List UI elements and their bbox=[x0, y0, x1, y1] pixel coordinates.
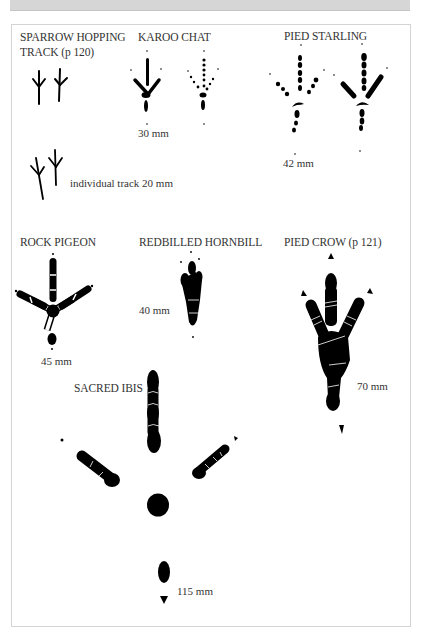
sparrow-label: SPARROW HOPPING bbox=[20, 31, 126, 43]
pied-starling-label: PIED STARLING bbox=[284, 30, 367, 42]
pied-crow-label: PIED CROW (p 121) bbox=[284, 236, 381, 248]
rock-pigeon-measurement: 45 mm bbox=[41, 355, 72, 367]
karoo-chat-label: KAROO CHAT bbox=[138, 31, 211, 43]
sparrow-track-icon bbox=[31, 69, 67, 199]
redbilled-hornbill-measurement: 40 mm bbox=[139, 304, 170, 316]
pied-crow-track-icon bbox=[301, 253, 373, 434]
sparrow-measurement: individual track 20 mm bbox=[70, 177, 173, 189]
tracks-artwork bbox=[0, 0, 424, 638]
pied-starling-measurement: 42 mm bbox=[283, 157, 314, 169]
redbilled-hornbill-track-icon bbox=[180, 251, 202, 338]
sacred-ibis-measurement: 115 mm bbox=[177, 585, 213, 597]
karoo-chat-measurement: 30 mm bbox=[138, 127, 169, 139]
pied-starling-track-icon bbox=[269, 43, 388, 155]
sacred-ibis-track-icon bbox=[61, 370, 239, 604]
sparrow-label-line2: TRACK (p 120) bbox=[20, 46, 94, 58]
pied-crow-measurement: 70 mm bbox=[357, 380, 388, 392]
sacred-ibis-label: SACRED IBIS bbox=[74, 382, 143, 394]
redbilled-hornbill-label: REDBILLED HORNBILL bbox=[139, 236, 262, 248]
rock-pigeon-track-icon bbox=[15, 253, 93, 350]
rock-pigeon-label: ROCK PIGEON bbox=[20, 236, 96, 248]
karoo-chat-track-icon bbox=[130, 50, 219, 125]
